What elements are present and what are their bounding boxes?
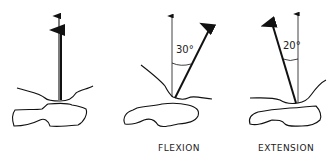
vertebra-motion-diagram [0,0,334,160]
lower-vertebra-outline [124,103,199,126]
flexion-angle-label: 30° [176,44,194,55]
upper-vertebra-outline [17,86,93,101]
extension-angle-label: 20° [283,40,301,51]
lower-vertebra-outline [249,106,320,126]
lower-vertebra-outline [13,103,87,126]
flexion-panel [124,16,212,127]
vertebra-axis-arrow [175,28,210,98]
extension-panel [249,14,326,126]
angle-arc [283,59,298,61]
upper-vertebra-outline [250,80,326,104]
angle-arc [172,63,191,65]
flexion-caption: FLEXION [158,143,200,153]
neutral-panel [13,16,93,126]
extension-caption: EXTENSION [258,143,314,153]
vertebra-axis-arrow [272,23,296,103]
